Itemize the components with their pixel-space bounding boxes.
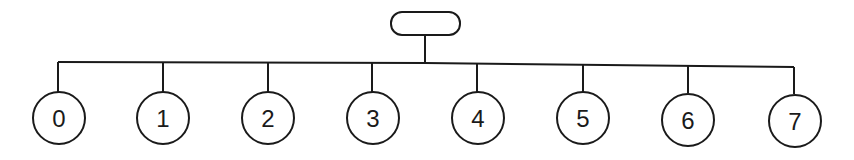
leaf-label: 1 bbox=[156, 105, 169, 132]
leaf-node-2: 2 bbox=[242, 92, 294, 144]
leaf-label: 4 bbox=[471, 105, 484, 132]
bus-line bbox=[58, 62, 794, 67]
leaf-node-6: 6 bbox=[662, 94, 714, 146]
leaf-label: 2 bbox=[261, 105, 274, 132]
leaf-label: 7 bbox=[788, 108, 801, 135]
leaf-node-1: 1 bbox=[137, 92, 189, 144]
leaf-node-5: 5 bbox=[557, 92, 609, 144]
root-node bbox=[391, 12, 460, 35]
leaf-node-0: 0 bbox=[33, 92, 85, 144]
root-box bbox=[391, 12, 460, 35]
leaf-label: 0 bbox=[52, 105, 65, 132]
leaf-label: 6 bbox=[681, 107, 694, 134]
tree-diagram: 0 1 2 3 4 5 6 7 bbox=[0, 0, 854, 160]
leaf-label: 5 bbox=[576, 105, 589, 132]
leaf-node-3: 3 bbox=[347, 92, 399, 144]
leaf-node-4: 4 bbox=[452, 92, 504, 144]
leaf-node-7: 7 bbox=[769, 95, 821, 147]
leaf-label: 3 bbox=[366, 105, 379, 132]
